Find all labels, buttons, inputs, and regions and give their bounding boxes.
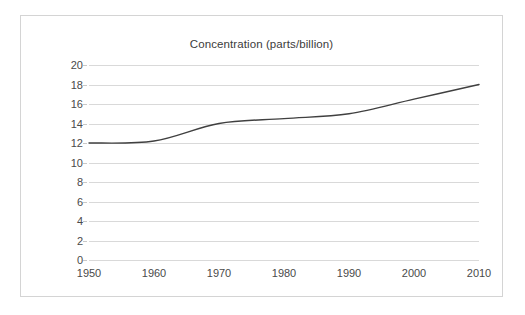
x-tick-label-1970: 1970 <box>207 268 231 279</box>
y-tick-mark-12 <box>83 143 87 144</box>
x-tick-label-1980: 1980 <box>272 268 296 279</box>
y-tick-mark-2 <box>83 241 87 242</box>
y-tick-mark-14 <box>83 124 87 125</box>
gridline-0 <box>89 260 479 261</box>
y-tick-label-16: 16 <box>53 99 83 110</box>
series-line-path <box>89 85 479 144</box>
y-tick-mark-16 <box>83 104 87 105</box>
y-tick-mark-18 <box>83 85 87 86</box>
y-tick-mark-4 <box>83 221 87 222</box>
chart-frame: Concentration (parts/billion) 0246810121… <box>20 15 503 297</box>
y-tick-label-12: 12 <box>53 138 83 149</box>
x-tick-label-2010: 2010 <box>467 268 491 279</box>
chart-title: Concentration (parts/billion) <box>21 38 502 50</box>
y-tick-label-20: 20 <box>53 60 83 71</box>
y-tick-mark-10 <box>83 163 87 164</box>
plot-area <box>89 65 479 260</box>
y-tick-label-0: 0 <box>53 255 83 266</box>
y-tick-label-14: 14 <box>53 118 83 129</box>
y-tick-mark-20 <box>83 65 87 66</box>
y-tick-label-2: 2 <box>53 235 83 246</box>
y-axis: 02468101214161820 <box>51 65 83 260</box>
y-tick-mark-6 <box>83 202 87 203</box>
x-tick-label-1990: 1990 <box>337 268 361 279</box>
y-tick-label-6: 6 <box>53 196 83 207</box>
y-tick-label-18: 18 <box>53 79 83 90</box>
x-tick-label-2000: 2000 <box>402 268 426 279</box>
x-axis: 1950196019701980199020002010 <box>89 268 479 286</box>
y-tick-label-8: 8 <box>53 177 83 188</box>
x-tick-label-1950: 1950 <box>77 268 101 279</box>
y-tick-label-4: 4 <box>53 216 83 227</box>
y-tick-label-10: 10 <box>53 157 83 168</box>
x-tick-label-1960: 1960 <box>142 268 166 279</box>
y-tick-mark-8 <box>83 182 87 183</box>
line-series-concentration <box>89 65 479 260</box>
y-tick-mark-0 <box>83 260 87 261</box>
